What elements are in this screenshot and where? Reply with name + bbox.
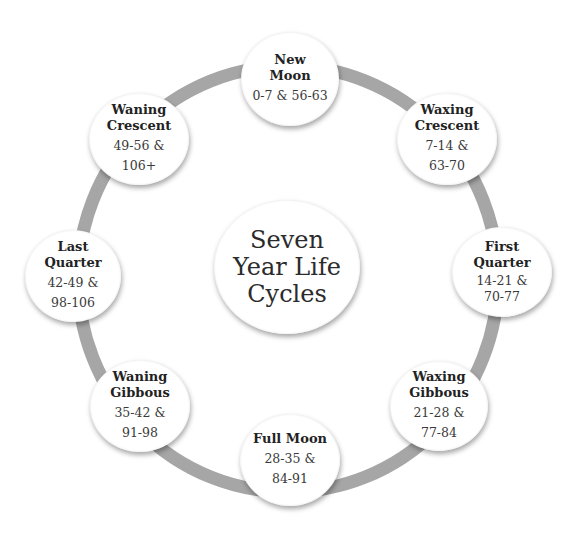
phase-title: Waning — [113, 369, 168, 385]
phase-title: Quarter — [44, 255, 101, 271]
phase-node-last-quarter: Last Quarter 42-49 & 98-106 — [25, 230, 121, 322]
phase-age-range: 91-98 — [122, 423, 158, 443]
phase-title: Waning — [112, 102, 167, 118]
phase-node-first-quarter: First Quarter 14-21 & 70-77 — [452, 227, 552, 317]
phase-title: Gibbous — [409, 385, 469, 401]
phase-age-range: 49-56 & — [113, 136, 164, 156]
phase-age-range: 84-91 — [272, 469, 308, 489]
phase-age-range: 77-84 — [421, 423, 457, 443]
phase-title: Waxing — [412, 369, 465, 385]
phase-age-range: 42-49 & — [47, 273, 98, 293]
center-node: Seven Year Life Cycles — [214, 200, 360, 334]
phase-age-range: 14-21 & — [476, 273, 527, 289]
phase-age-range: 28-35 & — [264, 449, 315, 469]
phase-title: Last — [58, 239, 89, 255]
phase-title: Gibbous — [110, 385, 170, 401]
phase-node-waning-gibbous: Waning Gibbous 35-42 & 91-98 — [90, 360, 190, 452]
phase-title: Waxing — [420, 102, 473, 118]
phase-age-range: 21-28 & — [413, 403, 464, 423]
phase-age-range: 98-106 — [51, 293, 95, 313]
phase-node-waxing-crescent: Waxing Crescent 7-14 & 63-70 — [397, 93, 497, 185]
phase-title: Crescent — [415, 118, 479, 134]
center-title-line: Cycles — [247, 281, 327, 308]
center-title-line: Year Life — [233, 254, 341, 281]
phase-title: Full Moon — [253, 431, 327, 447]
phase-title: Quarter — [473, 255, 530, 271]
phase-node-waning-crescent: Waning Crescent 49-56 & 106+ — [89, 93, 189, 185]
phase-node-waxing-gibbous: Waxing Gibbous 21-28 & 77-84 — [390, 361, 488, 451]
phase-age-range: 70-77 — [484, 289, 520, 305]
phase-title: Moon — [269, 68, 310, 84]
phase-node-full-moon: Full Moon 28-35 & 84-91 — [240, 414, 340, 506]
phase-age-range: 63-70 — [429, 156, 465, 176]
phase-age-range: 106+ — [122, 156, 156, 176]
center-title-line: Seven — [250, 227, 324, 254]
phase-age-range: 0-7 & 56-63 — [252, 86, 327, 106]
phase-node-new-moon: New Moon 0-7 & 56-63 — [241, 32, 339, 126]
phase-age-range: 35-42 & — [114, 403, 165, 423]
phase-age-range: 7-14 & — [425, 136, 468, 156]
phase-title: First — [485, 239, 519, 255]
phase-title: Crescent — [107, 118, 171, 134]
phase-title: New — [274, 52, 305, 68]
